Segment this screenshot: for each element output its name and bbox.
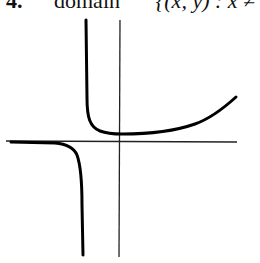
y-axis bbox=[119, 20, 120, 257]
function-graph bbox=[0, 0, 260, 263]
upper-branch-curve bbox=[86, 20, 236, 134]
lower-branch-curve bbox=[11, 142, 83, 255]
